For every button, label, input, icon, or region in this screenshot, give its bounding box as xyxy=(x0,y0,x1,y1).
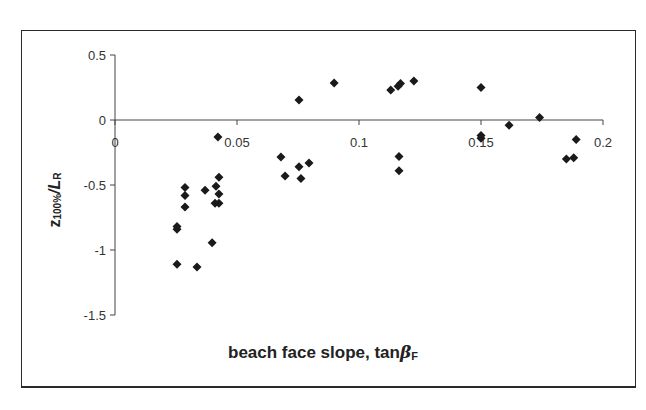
y-tick-label: -1.5 xyxy=(84,308,106,323)
x-tick-label: 0.2 xyxy=(594,135,612,150)
data-point-marker xyxy=(294,162,303,171)
data-point-marker xyxy=(304,158,313,167)
y-axis-title: z100%/LR xyxy=(46,172,64,227)
data-point-marker xyxy=(294,95,303,104)
data-point-marker xyxy=(172,260,181,269)
data-point-marker xyxy=(395,152,404,161)
data-point-marker xyxy=(572,135,581,144)
x-tick-label: 0.05 xyxy=(224,135,249,150)
data-point-marker xyxy=(192,262,201,271)
y-tick-label: -1 xyxy=(94,243,106,258)
data-point-marker xyxy=(213,132,222,141)
data-point-marker xyxy=(296,174,305,183)
data-point-marker xyxy=(214,173,223,182)
data-point-marker xyxy=(569,153,578,162)
x-tick-label: 0.1 xyxy=(350,135,368,150)
data-point-marker xyxy=(386,86,395,95)
data-point-marker xyxy=(201,186,210,195)
x-axis-title: beach face slope, tanβF xyxy=(0,342,646,363)
data-point-marker xyxy=(214,190,223,199)
tick-labels: 0.50-0.5-1-1.500.050.10.150.2 xyxy=(84,48,612,323)
data-point-marker xyxy=(276,153,285,162)
data-point-marker xyxy=(395,166,404,175)
x-tick-label: 0 xyxy=(111,135,118,150)
data-point-marker xyxy=(562,155,571,164)
y-tick-label: 0.5 xyxy=(88,48,106,63)
data-point-marker xyxy=(208,238,217,247)
data-point-marker xyxy=(535,113,544,122)
y-tick-label: -0.5 xyxy=(84,178,106,193)
data-point-marker xyxy=(181,183,190,192)
data-point-marker xyxy=(181,203,190,212)
data-point-marker xyxy=(409,77,418,86)
data-point-marker xyxy=(505,121,514,130)
data-point-marker xyxy=(477,83,486,92)
y-tick-label: 0 xyxy=(99,113,106,128)
data-point-marker xyxy=(281,171,290,180)
data-point-marker xyxy=(181,191,190,200)
data-point-marker xyxy=(212,182,221,191)
data-point-marker xyxy=(330,78,339,87)
data-points xyxy=(172,77,580,272)
